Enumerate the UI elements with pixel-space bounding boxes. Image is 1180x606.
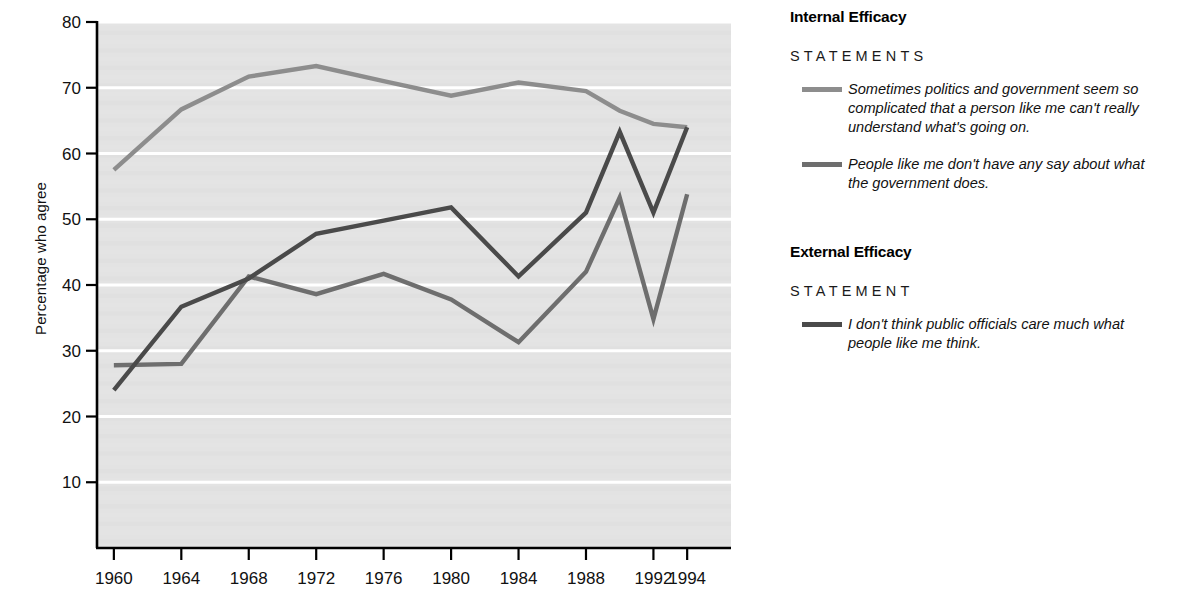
- texture-band: [97, 504, 731, 508]
- texture-band: [97, 145, 731, 149]
- texture-band: [97, 539, 731, 543]
- texture-band: [97, 425, 731, 429]
- legend-item-label: I don't think public officials care much…: [848, 315, 1148, 353]
- x-tick-label: 1976: [365, 569, 403, 588]
- x-axis-ticks: 1960196419681972197619801984198819921994: [95, 548, 706, 588]
- texture-band: [97, 57, 731, 61]
- texture-band: [97, 232, 731, 236]
- texture-band: [97, 452, 731, 456]
- y-axis-title: Percentage who agree: [32, 149, 49, 369]
- texture-band: [97, 329, 731, 333]
- legend-group-1: External EfficacySTATEMENTI don't think …: [790, 243, 1180, 385]
- texture-band: [97, 495, 731, 499]
- texture-band: [97, 48, 731, 52]
- y-axis-ticks: 1020304050607080: [62, 13, 97, 492]
- legend-item-label: People like me don't have any say about …: [848, 155, 1148, 193]
- legend-group-0: Internal EfficacySTATEMENTSSometimes pol…: [790, 8, 1180, 241]
- x-tick-label: 1968: [230, 569, 268, 588]
- x-tick-label: 1988: [567, 569, 605, 588]
- x-tick-label: 1984: [500, 569, 538, 588]
- texture-band: [97, 487, 731, 491]
- texture-band: [97, 434, 731, 438]
- x-tick-label: 1960: [95, 569, 133, 588]
- texture-band: [97, 460, 731, 464]
- texture-band: [97, 241, 731, 245]
- x-tick-label: 1992: [635, 569, 673, 588]
- y-tick-label: 10: [62, 473, 81, 492]
- legend-group-subtitle: STATEMENTS: [790, 48, 1180, 64]
- y-tick-label: 30: [62, 342, 81, 361]
- texture-band: [97, 224, 731, 228]
- legend-group-title: Internal Efficacy: [790, 8, 1180, 26]
- legend-item[interactable]: Sometimes politics and government seem s…: [790, 80, 1180, 137]
- texture-band: [97, 373, 731, 377]
- legend-group-subtitle: STATEMENT: [790, 283, 1180, 299]
- legend-line-swatch: [802, 322, 842, 327]
- texture-band: [97, 136, 731, 140]
- legend-item[interactable]: People like me don't have any say about …: [790, 155, 1180, 193]
- line-chart: 1020304050607080196019641968197219761980…: [0, 0, 790, 606]
- texture-band: [97, 513, 731, 517]
- legend-spacer: [790, 371, 1180, 385]
- chart-legend: Internal EfficacySTATEMENTSSometimes pol…: [790, 0, 1180, 606]
- y-tick-label: 20: [62, 408, 81, 427]
- texture-band: [97, 110, 731, 114]
- texture-band: [97, 522, 731, 526]
- texture-band: [97, 197, 731, 201]
- y-tick-label: 80: [62, 13, 81, 32]
- texture-band: [97, 40, 731, 44]
- texture-band: [97, 127, 731, 131]
- texture-band: [97, 92, 731, 96]
- chart-page: 1020304050607080196019641968197219761980…: [0, 0, 1180, 606]
- texture-band: [97, 189, 731, 193]
- y-tick-label: 50: [62, 210, 81, 229]
- chart-canvas: 1020304050607080196019641968197219761980…: [0, 0, 790, 606]
- y-tick-label: 40: [62, 276, 81, 295]
- texture-band: [97, 206, 731, 210]
- texture-band: [97, 66, 731, 70]
- texture-band: [97, 338, 731, 342]
- legend-spacer: [790, 211, 1180, 241]
- texture-band: [97, 294, 731, 298]
- texture-band: [97, 180, 731, 184]
- texture-band: [97, 443, 731, 447]
- texture-band: [97, 355, 731, 359]
- legend-item[interactable]: I don't think public officials care much…: [790, 315, 1180, 353]
- texture-band: [97, 390, 731, 394]
- texture-band: [97, 364, 731, 368]
- y-tick-label: 70: [62, 79, 81, 98]
- legend-line-swatch: [802, 162, 842, 167]
- x-tick-label: 1980: [432, 569, 470, 588]
- legend-item-label: Sometimes politics and government seem s…: [848, 80, 1148, 137]
- legend-group-title: External Efficacy: [790, 243, 1180, 261]
- y-tick-label: 60: [62, 145, 81, 164]
- legend-line-swatch: [802, 87, 842, 92]
- texture-band: [97, 381, 731, 385]
- texture-band: [97, 31, 731, 35]
- texture-band: [97, 276, 731, 280]
- texture-band: [97, 530, 731, 534]
- x-tick-label: 1972: [297, 569, 335, 588]
- x-tick-label: 1994: [668, 569, 706, 588]
- texture-band: [97, 399, 731, 403]
- texture-band: [97, 469, 731, 473]
- texture-band: [97, 311, 731, 315]
- texture-band: [97, 75, 731, 79]
- texture-band: [97, 408, 731, 412]
- texture-band: [97, 320, 731, 324]
- texture-band: [97, 267, 731, 271]
- x-tick-label: 1964: [162, 569, 200, 588]
